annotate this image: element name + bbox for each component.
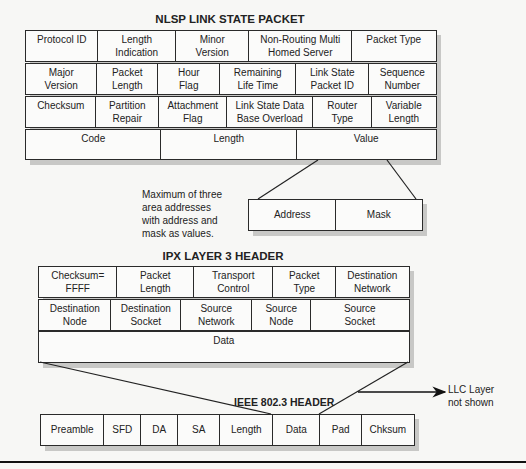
connector-lines	[0, 0, 526, 469]
